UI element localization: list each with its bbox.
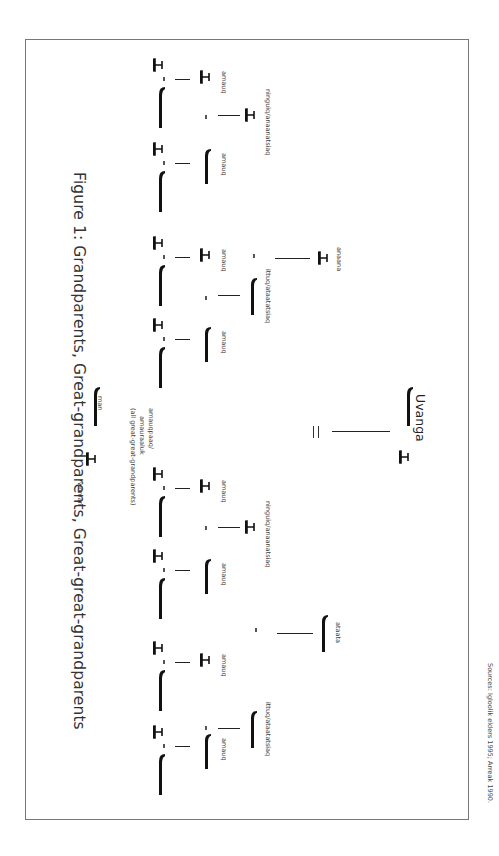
- gg-marriage-equals: [163, 161, 165, 165]
- gg-woman-icon: [153, 142, 167, 156]
- parent-label-anaana: anaana: [335, 247, 343, 271]
- gg-marriage-equals: [163, 744, 165, 748]
- parent-descent-line: [277, 633, 313, 634]
- gg-descent-line: [175, 339, 190, 340]
- gg-man-icon: [158, 170, 166, 212]
- grandparent-marriage-equals: [253, 254, 255, 258]
- legend-man-label: man: [96, 396, 104, 410]
- great-grandparent-label: amauq: [220, 153, 228, 176]
- gg-woman-icon: [153, 641, 167, 655]
- gg-woman-icon: [153, 549, 167, 563]
- father-icon: [321, 614, 329, 652]
- grandfather-icon: [250, 710, 258, 748]
- great-grandfather-icon: [204, 733, 212, 769]
- gg-woman-icon: [153, 236, 167, 250]
- great-grandparent-label: amauq: [220, 738, 228, 761]
- grandmother-icon: [245, 520, 259, 534]
- great-grandparent-marriage-equals: [205, 115, 207, 119]
- great-grandmother-icon: [200, 479, 214, 493]
- gg-descent-line: [175, 570, 190, 571]
- grandparent-descent-line: [218, 527, 240, 528]
- gg-man-icon: [158, 264, 166, 306]
- gg-woman-icon: [153, 318, 167, 332]
- grandfather-icon: [250, 277, 258, 315]
- great-grandparent-label: amauq: [220, 654, 228, 677]
- legend-woman-label: woman: [76, 482, 84, 506]
- great-grandmother-icon: [200, 248, 214, 262]
- gg-descent-line: [175, 662, 190, 663]
- gg-woman-icon: [153, 58, 167, 72]
- gg-descent-line: [175, 488, 190, 489]
- ego-descent-line: [332, 431, 390, 432]
- great-grandparent-label: amauq: [220, 71, 228, 94]
- grandparent-marriage-equals: [255, 628, 257, 632]
- great-grandfather-icon: [204, 558, 212, 594]
- gg-descent-line: [175, 746, 190, 747]
- grandmother-icon: [245, 108, 259, 122]
- grandparent-descent-line: [218, 728, 240, 729]
- gg-woman-icon: [153, 467, 167, 481]
- ego-woman-icon: [399, 450, 413, 464]
- gg-man-icon: [158, 669, 166, 711]
- gg-descent-line: [175, 163, 190, 164]
- great-grandfather-icon: [204, 326, 212, 362]
- gg-marriage-equals: [163, 660, 165, 664]
- gg-marriage-equals: [163, 486, 165, 490]
- mother-icon: [318, 251, 332, 265]
- figure-frame: [25, 39, 469, 820]
- great-grandparent-marriage-equals: [205, 526, 207, 530]
- great-grandfather-icon: [204, 148, 212, 184]
- grandparent-descent-line: [218, 115, 240, 116]
- great-grandparent-label: amauq: [220, 480, 228, 503]
- grandparent-descent-line: [218, 295, 240, 296]
- woman-symbol-icon: [86, 452, 100, 466]
- gg-man-icon: [158, 577, 166, 619]
- source-note: Sources: Igloolik elders 1995; Arreak 19…: [486, 663, 494, 803]
- grandparent-label: ninguiq/anaanatsiaq: [264, 89, 272, 155]
- gg-woman-icon: [153, 725, 167, 739]
- grandparent-label: ittuq/ataatatsiaq: [264, 702, 272, 756]
- parent-label-ataata: ataata: [334, 622, 342, 643]
- great-grandparent-marriage-equals: [205, 296, 207, 300]
- gg-marriage-equals: [163, 568, 165, 572]
- gg-man-icon: [158, 86, 166, 128]
- ego-label: Uvanga: [413, 394, 428, 442]
- gg-man-icon: [158, 753, 166, 795]
- great-grandparent-marriage-equals: [205, 726, 207, 730]
- gg-man-icon: [158, 495, 166, 537]
- grandparent-label: ittuq/ataatatsiaq: [264, 269, 272, 323]
- great-grandparent-label: amauq: [220, 331, 228, 354]
- gg-marriage-equals: [163, 255, 165, 259]
- gg-descent-line: [175, 79, 190, 80]
- great-grandparent-label: amauq: [220, 563, 228, 586]
- gg-label-line2: amauraaluk: [137, 408, 146, 506]
- grandparent-label: ninguiq/anaanatsiaq: [264, 501, 272, 567]
- gg-label-line1: amauqpaaq/: [146, 408, 155, 506]
- gg-man-icon: [158, 346, 166, 388]
- great-grandparent-label: amauq: [220, 249, 228, 272]
- great-great-grandparents-label: amauqpaaq/ amauraaluk (all great-great-g…: [128, 408, 155, 506]
- gg-marriage-equals: [163, 337, 165, 341]
- parent-descent-line: [275, 258, 310, 259]
- figure-title: Figure 1: Grandparents, Great-grandparen…: [70, 172, 88, 730]
- ego-marriage-equals: [313, 426, 319, 438]
- great-grandmother-icon: [200, 653, 214, 667]
- gg-marriage-equals: [163, 77, 165, 81]
- great-grandmother-icon: [200, 70, 214, 84]
- gg-descent-line: [175, 257, 190, 258]
- gg-label-line3: (all great-great-grandparents): [128, 408, 137, 506]
